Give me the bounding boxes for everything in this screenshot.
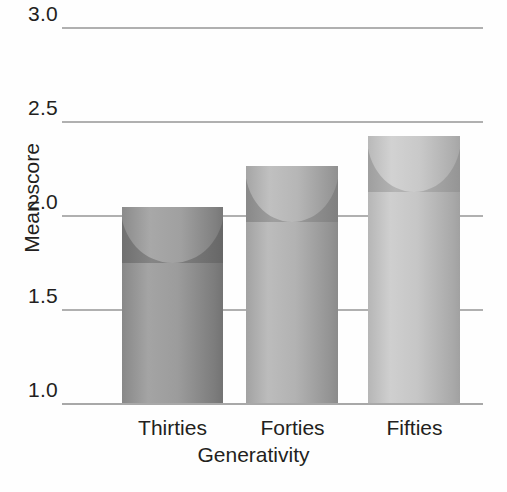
ytick-2-5: 2.5 xyxy=(0,96,58,120)
gridline-3-0 xyxy=(62,27,483,29)
axis-baseline xyxy=(62,403,483,405)
ytick-1-5: 1.5 xyxy=(0,284,58,308)
plot-area: 3.0 2.5 2.0 1.5 1.0 Mean score xyxy=(0,0,507,492)
ytick-label-3-0: 3.0 xyxy=(4,2,58,26)
gridline-2-5 xyxy=(62,121,483,123)
bar-thirties[interactable] xyxy=(122,207,223,403)
chart-figure: 3.0 2.5 2.0 1.5 1.0 Mean score xyxy=(0,0,507,492)
ytick-label-1-5: 1.5 xyxy=(4,284,58,308)
xtick-label-forties: Forties xyxy=(232,416,353,440)
bar-fifties[interactable] xyxy=(368,136,460,403)
ytick-1-0: 1.0 xyxy=(0,378,58,402)
y-axis-title: Mean score xyxy=(20,128,44,268)
ytick-label-2-5: 2.5 xyxy=(4,96,58,120)
bar-forties[interactable] xyxy=(246,166,338,403)
xtick-label-fifties: Fifties xyxy=(354,416,475,440)
ytick-3-0: 3.0 xyxy=(0,2,58,26)
ytick-label-1-0: 1.0 xyxy=(4,378,58,402)
xtick-label-thirties: Thirties xyxy=(112,416,233,440)
x-axis-title: Generativity xyxy=(0,443,507,467)
